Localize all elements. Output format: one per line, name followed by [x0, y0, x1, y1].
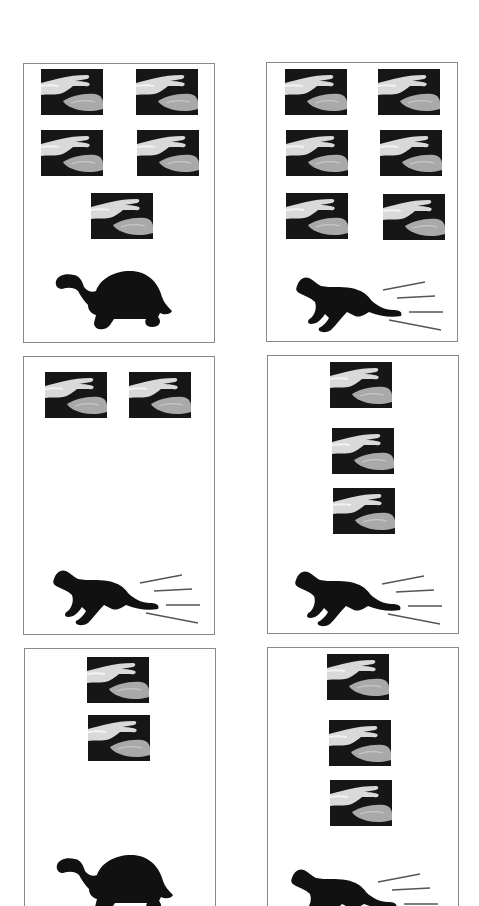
hand-touch-image [330, 780, 392, 826]
hand-touch-image [87, 657, 149, 703]
hand-touch-image [332, 428, 394, 474]
hand-touch-image [383, 194, 445, 240]
hand-touch-image [136, 69, 198, 115]
hand-touch-image [330, 362, 392, 408]
running-cat-icon [290, 866, 440, 906]
hand-touch-image [91, 193, 153, 239]
running-cat-icon [52, 567, 202, 627]
figure-canvas [0, 0, 479, 906]
panel-2 [266, 62, 458, 342]
running-cat-icon [294, 568, 444, 628]
panel-4 [267, 355, 459, 634]
hand-touch-image [88, 715, 150, 761]
hand-touch-image [285, 69, 347, 115]
hand-touch-image [41, 69, 103, 115]
tortoise-icon [55, 851, 175, 906]
hand-touch-image [378, 69, 440, 115]
panel-6 [267, 647, 459, 906]
hand-touch-image [45, 372, 107, 418]
hand-touch-image [286, 193, 348, 239]
hand-touch-image [380, 130, 442, 176]
running-cat-icon [295, 274, 445, 334]
hand-touch-image [286, 130, 348, 176]
hand-touch-image [333, 488, 395, 534]
tortoise-icon [54, 267, 174, 332]
hand-touch-image [137, 130, 199, 176]
panel-5 [24, 648, 216, 906]
hand-touch-image [129, 372, 191, 418]
panel-3 [23, 356, 215, 635]
panel-1 [23, 63, 215, 343]
hand-touch-image [329, 720, 391, 766]
hand-touch-image [41, 130, 103, 176]
hand-touch-image [327, 654, 389, 700]
